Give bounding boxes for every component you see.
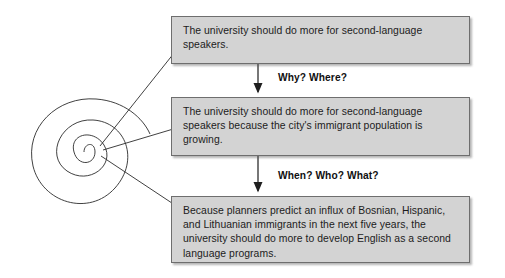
connector-label-why-where: Why? Where?	[278, 72, 347, 83]
thesis-step-box-2: The university should do more for second…	[171, 97, 470, 156]
connector-label-when-who-what: When? Who? What?	[278, 170, 379, 181]
spiral-icon	[32, 99, 150, 204]
diagram-canvas: The university should do more for second…	[0, 0, 505, 278]
thesis-step-box-1: The university should do more for second…	[171, 16, 470, 64]
thesis-step-box-3: Because planners predict an influx of Bo…	[171, 196, 470, 263]
